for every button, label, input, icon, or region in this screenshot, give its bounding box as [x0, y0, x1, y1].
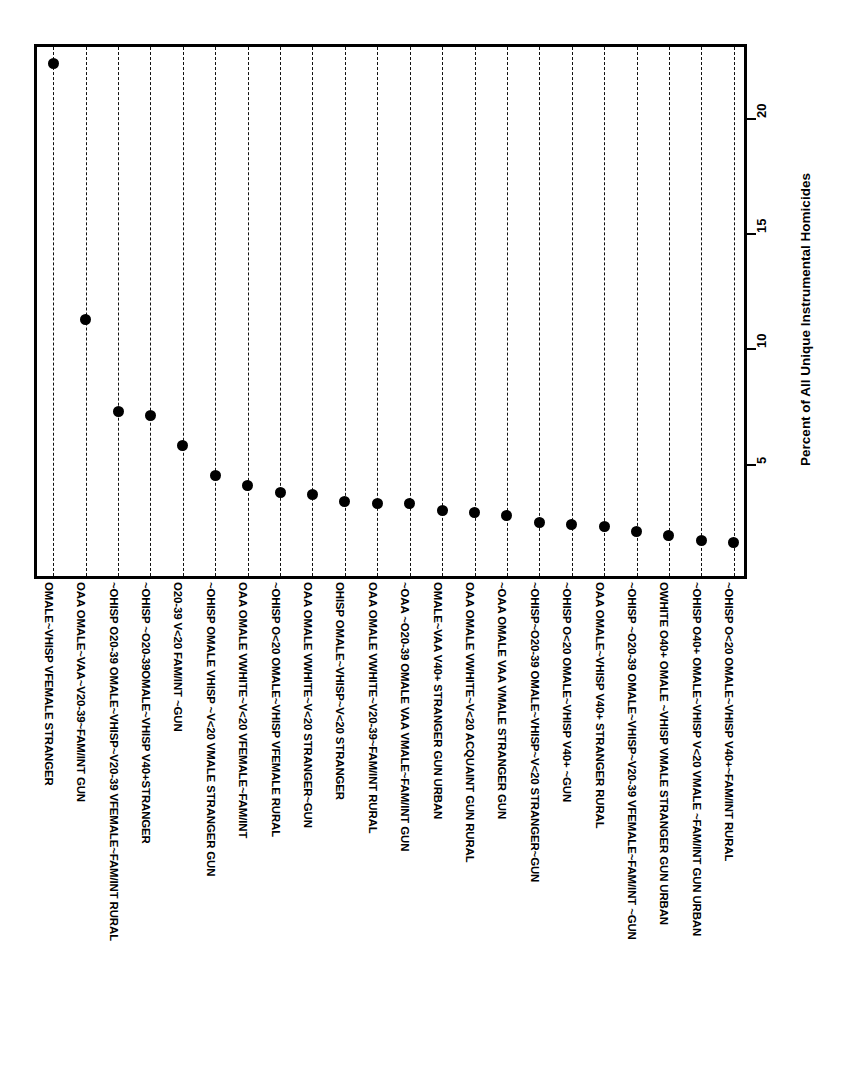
- category-label: OAA OMALE~VHISP V40+ STRANGER RURAL: [594, 582, 606, 829]
- data-point[interactable]: [501, 510, 512, 521]
- category-label: OAA OMALE VWHITE~V<20 VFEMALE~FAM/INT: [237, 582, 249, 838]
- dropline: [572, 47, 573, 576]
- category-label: OMALE~VHISP VFEMALE STRANGER: [43, 582, 55, 786]
- dropline: [442, 47, 443, 576]
- category-label: ~OHISP O<20 OMALE~VHISP VFEMALE RURAL: [270, 582, 282, 837]
- value-axis-title: Percent of All Unique Instrumental Homic…: [798, 173, 813, 466]
- dropline: [507, 47, 508, 576]
- value-axis: Percent of All Unique Instrumental Homic…: [747, 44, 843, 579]
- category-label: ~OHISP ~O20-39OMALE~VHISP V40+STRANGER: [140, 582, 152, 844]
- data-point[interactable]: [113, 406, 124, 417]
- axis-tick: [747, 118, 756, 120]
- category-label: ~OHISP OMALE VHISP ~V<20 VMALE STRANGER …: [205, 582, 217, 876]
- data-point[interactable]: [177, 440, 188, 451]
- data-point[interactable]: [599, 521, 610, 532]
- data-point[interactable]: [275, 487, 286, 498]
- data-point[interactable]: [307, 489, 318, 500]
- dropline: [475, 47, 476, 576]
- data-point[interactable]: [242, 480, 253, 491]
- data-point[interactable]: [48, 58, 59, 69]
- dropline: [734, 47, 735, 576]
- dropline: [410, 47, 411, 576]
- category-label: ~OAA ~O20-39 OMALE VAA VMALE~FAM/INT GUN: [399, 582, 411, 851]
- dropline: [701, 47, 702, 576]
- category-label: ~OAA OMALE VAA VMALE STRANGER GUN: [496, 582, 508, 819]
- category-label: OWHITE O40+ OMALE ~VHISP VMALE STRANGER …: [658, 582, 670, 925]
- axis-tick-label: 15: [754, 219, 769, 233]
- data-point[interactable]: [210, 470, 221, 481]
- data-point[interactable]: [80, 314, 91, 325]
- dropline: [215, 47, 216, 576]
- data-point[interactable]: [696, 535, 707, 546]
- data-point[interactable]: [534, 517, 545, 528]
- dropline: [53, 47, 54, 576]
- category-label: ~OHISP O<20 OMALE~VHISP V40+~FAM/INT RUR…: [723, 582, 735, 861]
- category-label: OAA OMALE VWHITE~V<20 STRANGER~GUN: [302, 582, 314, 828]
- category-label: OMALE~VAA V40+ STRANGER GUN URBAN: [432, 582, 444, 819]
- category-label: ~OHISP ~O20-39 OMALE~VHISP~V20-39 VFEMAL…: [626, 582, 638, 940]
- data-point[interactable]: [404, 498, 415, 509]
- category-label: ~OHISP O40+ OMALE~VHISP V<20 VMALE ~FAM/…: [691, 582, 703, 936]
- data-point[interactable]: [469, 507, 480, 518]
- data-point[interactable]: [339, 496, 350, 507]
- dropline: [183, 47, 184, 576]
- axis-tick-label: 5: [754, 456, 769, 463]
- plot-area: [34, 44, 747, 579]
- dropline: [377, 47, 378, 576]
- category-label: ~OHISP O<20 OMALE~VHISP V40+ ~GUN: [561, 582, 573, 802]
- dropline: [118, 47, 119, 576]
- data-point[interactable]: [566, 519, 577, 530]
- data-point[interactable]: [145, 410, 156, 421]
- data-point[interactable]: [631, 526, 642, 537]
- dropline: [86, 47, 87, 576]
- axis-tick-label: 20: [754, 103, 769, 117]
- axis-tick: [747, 233, 756, 235]
- category-label: O20-39 V<20 FAM/INT ~GUN: [172, 582, 184, 732]
- data-point[interactable]: [437, 505, 448, 516]
- chart-page: Percent of All Unique Instrumental Homic…: [0, 0, 843, 1078]
- category-label: ~OHISP~O20-39 OMALE~VHISP~V<20 STRANGER~…: [529, 582, 541, 882]
- dropline: [604, 47, 605, 576]
- data-point[interactable]: [728, 537, 739, 548]
- axis-tick: [747, 348, 756, 350]
- category-label: OAA OMALE~VAA~V20-39~FAM/INT GUN: [75, 582, 87, 802]
- dropline: [248, 47, 249, 576]
- data-point[interactable]: [372, 498, 383, 509]
- axis-tick-label: 10: [754, 334, 769, 348]
- category-label: OAA OMALE VWHITE~V20-39~FAM/INT RURAL: [367, 582, 379, 834]
- dropline: [539, 47, 540, 576]
- category-axis-labels: OMALE~VHISP VFEMALE STRANGEROAA OMALE~VA…: [34, 582, 747, 1022]
- category-label: OHISP OMALE~VHISP~V<20 STRANGER: [334, 582, 346, 800]
- data-point[interactable]: [663, 530, 674, 541]
- dropline: [150, 47, 151, 576]
- dropline: [637, 47, 638, 576]
- dropline: [669, 47, 670, 576]
- category-label: OAA OMALE VWHITE~V<20 ACQUAINT GUN RURAL: [464, 582, 476, 863]
- category-label: ~OHISP O20-39 OMALE~VHISP~V20-39 VFEMALE…: [108, 582, 120, 941]
